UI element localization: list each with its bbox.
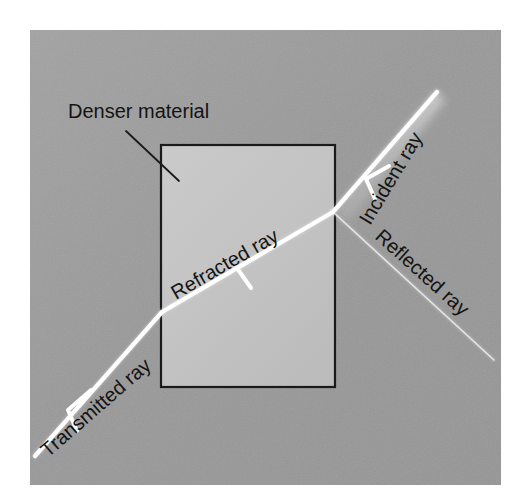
diagram-svg: Denser material Refracted ray Incident r…	[0, 0, 518, 503]
denser-material-label: Denser material	[68, 100, 209, 122]
optics-diagram: Denser material Refracted ray Incident r…	[0, 0, 518, 503]
denser-material-block	[161, 145, 335, 387]
